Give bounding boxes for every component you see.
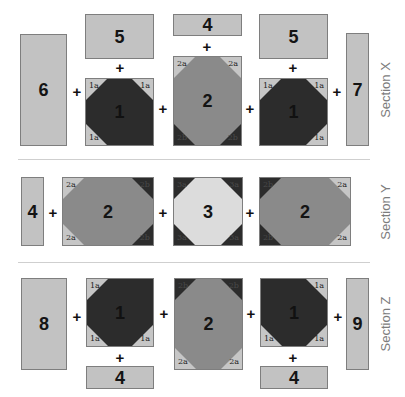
block-label: 1 bbox=[261, 304, 327, 322]
block-label: 3 bbox=[174, 203, 242, 221]
block-1-left: 1a 1a 1a 1 bbox=[86, 278, 154, 347]
corner-label: 1a bbox=[140, 335, 150, 343]
block-1-right: 1a 1a 1a 1 bbox=[259, 78, 328, 146]
plus-sign: + bbox=[333, 84, 342, 99]
corner-label: 2b bbox=[263, 181, 273, 189]
corner-label: 1a bbox=[263, 82, 273, 90]
block-2-right: 2b 2a 2b 2a 2 bbox=[259, 177, 351, 246]
corner-label: 3a bbox=[229, 181, 239, 189]
corner-label: 2b bbox=[229, 282, 239, 290]
corner-label: 2a bbox=[229, 358, 239, 366]
corner-label: 1a bbox=[314, 134, 324, 142]
block-label: 1 bbox=[87, 304, 153, 322]
block-1-left: 1a 1a 1a 1 bbox=[85, 78, 154, 146]
section-z-label: Section Z bbox=[378, 297, 393, 352]
plus-sign: + bbox=[116, 350, 125, 365]
block-label: 1 bbox=[260, 103, 327, 121]
corner-label: 3a bbox=[177, 234, 187, 242]
block-2: 2a 2a 2b 2b 2 bbox=[173, 56, 242, 146]
corner-label: 2a bbox=[337, 181, 347, 189]
block-4: 4 bbox=[21, 177, 44, 246]
plus-sign: + bbox=[159, 101, 168, 116]
block-7: 7 bbox=[346, 33, 369, 146]
corner-label: 1a bbox=[140, 82, 150, 90]
block-label: 4 bbox=[174, 16, 241, 34]
corner-label: 1a bbox=[89, 134, 99, 142]
block-label: 8 bbox=[22, 315, 66, 333]
plus-sign: + bbox=[246, 101, 255, 116]
block-label: 9 bbox=[347, 315, 368, 333]
corner-label: 2b bbox=[178, 282, 188, 290]
block-label: 1 bbox=[86, 103, 153, 121]
plus-sign: + bbox=[49, 205, 58, 220]
block-label: 4 bbox=[261, 369, 327, 387]
block-label: 7 bbox=[347, 81, 368, 99]
block-1-right: 1a 1a 1a 1 bbox=[260, 278, 328, 347]
plus-sign: + bbox=[246, 205, 255, 220]
plus-sign: + bbox=[289, 350, 298, 365]
block-label: 4 bbox=[87, 369, 153, 387]
section-divider bbox=[18, 262, 370, 263]
plus-sign: + bbox=[203, 39, 212, 54]
corner-label: 2b bbox=[263, 234, 273, 242]
section-y-label: Section Y bbox=[378, 184, 393, 239]
plus-sign: + bbox=[116, 60, 125, 75]
corner-label: 3a bbox=[229, 234, 239, 242]
block-label: 2 bbox=[260, 203, 350, 221]
block-4-right: 4 bbox=[260, 366, 328, 389]
block-label: 5 bbox=[260, 28, 327, 46]
block-4-top: 4 bbox=[173, 14, 242, 36]
block-8: 8 bbox=[21, 278, 67, 370]
corner-label: 2b bbox=[228, 134, 238, 142]
corner-label: 2b bbox=[140, 181, 150, 189]
block-3: 3a 3a 3a 3a 3 bbox=[173, 177, 243, 246]
corner-label: 1a bbox=[90, 282, 100, 290]
plus-sign: + bbox=[73, 84, 82, 99]
plus-sign: + bbox=[73, 309, 82, 324]
block-label: 2 bbox=[174, 92, 241, 110]
block-label: 4 bbox=[22, 203, 43, 221]
corner-label: 1a bbox=[314, 335, 324, 343]
corner-label: 1a bbox=[89, 82, 99, 90]
section-divider bbox=[18, 159, 370, 160]
corner-label: 1a bbox=[314, 282, 324, 290]
block-4-left: 4 bbox=[86, 366, 154, 389]
plus-sign: + bbox=[334, 309, 343, 324]
block-2: 2b 2b 2a 2a 2 bbox=[174, 278, 243, 370]
plus-sign: + bbox=[247, 306, 256, 321]
corner-label: 3a bbox=[177, 181, 187, 189]
corner-label: 2a bbox=[178, 358, 188, 366]
plus-sign: + bbox=[160, 306, 169, 321]
block-5-right: 5 bbox=[259, 14, 328, 59]
block-9: 9 bbox=[346, 278, 369, 370]
block-label: 2 bbox=[63, 203, 153, 221]
corner-label: 2a bbox=[177, 60, 187, 68]
corner-label: 2a bbox=[337, 234, 347, 242]
corner-label: 1a bbox=[314, 82, 324, 90]
corner-label: 2b bbox=[177, 134, 187, 142]
corner-label: 2a bbox=[228, 60, 238, 68]
corner-label: 2a bbox=[66, 181, 76, 189]
plus-sign: + bbox=[159, 205, 168, 220]
corner-label: 2a bbox=[66, 234, 76, 242]
corner-label: 2b bbox=[140, 234, 150, 242]
block-5-left: 5 bbox=[85, 14, 154, 59]
section-x-label: Section X bbox=[378, 62, 393, 118]
block-label: 6 bbox=[21, 81, 66, 99]
plus-sign: + bbox=[289, 60, 298, 75]
quilt-assembly-diagram: 6 + 5 + 1a 1a 1a 1 + 4 + bbox=[0, 0, 405, 397]
corner-label: 1a bbox=[90, 335, 100, 343]
block-label: 5 bbox=[86, 28, 153, 46]
block-2-left: 2a 2b 2a 2b 2 bbox=[62, 177, 154, 246]
block-label: 2 bbox=[175, 315, 242, 333]
block-6: 6 bbox=[20, 34, 67, 146]
corner-label: 1a bbox=[264, 335, 274, 343]
